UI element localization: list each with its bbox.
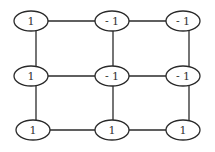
- node-n00: 1: [14, 11, 48, 31]
- node-label: 1: [28, 70, 35, 83]
- node-label: 1: [30, 124, 37, 137]
- node-n01: - 1: [95, 11, 129, 31]
- node-n21: 1: [95, 120, 129, 140]
- node-n20: 1: [16, 120, 50, 140]
- node-label: 1: [28, 15, 35, 28]
- node-label: 1: [180, 124, 187, 137]
- node-n02: - 1: [166, 11, 200, 31]
- node-label: - 1: [176, 15, 190, 28]
- node-n10: 1: [14, 66, 48, 86]
- node-label: - 1: [105, 15, 119, 28]
- node-n22: 1: [166, 120, 200, 140]
- node-n12: - 1: [166, 66, 200, 86]
- grid-graph-diagram: 1 - 1 - 1 1 - 1 - 1 1 1: [0, 0, 215, 152]
- node-label: - 1: [105, 70, 119, 83]
- nodes: 1 - 1 - 1 1 - 1 - 1 1 1: [14, 11, 200, 140]
- node-label: - 1: [176, 70, 190, 83]
- node-n11: - 1: [95, 66, 129, 86]
- node-label: 1: [109, 124, 116, 137]
